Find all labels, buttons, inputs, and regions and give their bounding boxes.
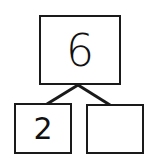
part-box-left: 2 — [14, 103, 72, 154]
connector-right — [78, 85, 110, 105]
part-left-value: 2 — [33, 111, 52, 146]
connector-left — [47, 85, 78, 104]
part-box-right[interactable] — [86, 104, 144, 154]
whole-box: 6 — [39, 15, 121, 85]
whole-value: 6 — [66, 25, 94, 76]
